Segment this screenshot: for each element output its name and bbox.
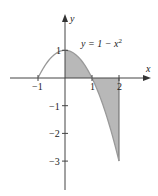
- y-tick-label: 1: [56, 45, 61, 56]
- x-tick-label: 1: [90, 81, 95, 92]
- chart: x y y = 1 − x2 −1121−1−2−3: [0, 0, 158, 196]
- x-axis-label: x: [145, 63, 151, 74]
- y-tick-label: −1: [49, 101, 60, 112]
- y-axis-arrow-icon: [62, 14, 68, 22]
- function-label: y = 1 − x2: [80, 37, 122, 49]
- x-axis-arrow-icon: [143, 75, 151, 81]
- y-tick-label: −2: [49, 128, 60, 139]
- y-axis-label: y: [69, 13, 75, 24]
- x-tick-label: 2: [117, 81, 122, 92]
- shaded-region: [65, 50, 119, 161]
- x-tick-label: −1: [32, 81, 43, 92]
- y-tick-label: −3: [49, 156, 60, 167]
